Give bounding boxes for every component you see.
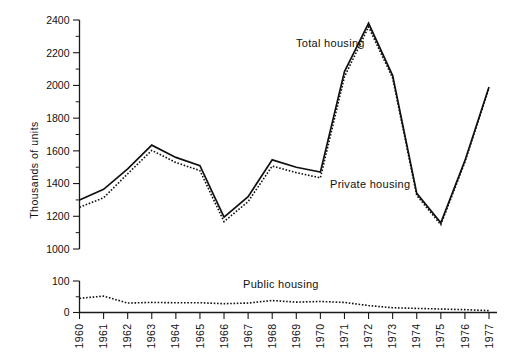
x-tick-label: 1962: [121, 324, 133, 349]
x-axis-ticks: [80, 313, 490, 320]
x-tick-label: 1966: [218, 324, 230, 349]
y-tick-label: 1200: [46, 210, 70, 222]
x-tick-label: 1972: [362, 324, 374, 349]
y-tick-label: 0: [64, 306, 70, 318]
x-tick-label: 1975: [434, 324, 446, 349]
x-tick-label: 1963: [145, 324, 157, 349]
lower-panel: 0100 Public housing: [52, 275, 489, 319]
x-tick-label: 1970: [314, 324, 326, 349]
y-tick-label: 2400: [46, 14, 70, 26]
private-housing-line: [80, 27, 490, 225]
upper-panel: 10001200140016001800200022002400 Total h…: [46, 14, 489, 255]
x-tick-label: 1960: [73, 324, 85, 349]
public-housing-label: Public housing: [243, 278, 319, 290]
x-axis-tick-labels: 1960196119621963196419651966196719681969…: [73, 324, 495, 349]
x-tick-label: 1967: [242, 324, 254, 349]
upper-panel-y-tick-labels: 10001200140016001800200022002400: [46, 14, 70, 255]
total-housing-label: Total housing: [296, 37, 365, 49]
x-tick-label: 1971: [338, 324, 350, 349]
housing-starts-chart-figure: Thousands of units 100012001400160018002…: [0, 0, 527, 357]
y-tick-label: 100: [52, 275, 70, 287]
x-tick-label: 1977: [483, 324, 495, 349]
y-tick-label: 2000: [46, 79, 70, 91]
y-tick-label: 2200: [46, 47, 70, 59]
private-housing-label: Private housing: [330, 178, 410, 190]
y-tick-label: 1800: [46, 112, 70, 124]
y-axis-title: Thousands of units: [28, 121, 40, 219]
chart-canvas: Thousands of units 100012001400160018002…: [0, 0, 527, 357]
upper-panel-y-ticks: [73, 20, 80, 249]
x-tick-label: 1974: [410, 324, 422, 349]
x-tick-label: 1961: [97, 324, 109, 349]
y-tick-label: 1600: [46, 145, 70, 157]
x-axis: 1960196119621963196419651966196719681969…: [73, 313, 497, 349]
x-tick-label: 1969: [290, 324, 302, 349]
public-housing-line: [80, 296, 490, 310]
lower-panel-y-tick-labels: 0100: [52, 275, 70, 319]
x-tick-label: 1973: [386, 324, 398, 349]
x-tick-label: 1964: [169, 324, 181, 349]
x-tick-label: 1968: [266, 324, 278, 349]
y-tick-label: 1400: [46, 177, 70, 189]
x-tick-label: 1965: [194, 324, 206, 349]
x-tick-label: 1976: [459, 324, 471, 349]
lower-panel-y-ticks: [73, 281, 80, 313]
y-tick-label: 1000: [46, 243, 70, 255]
total-housing-line: [80, 23, 490, 223]
